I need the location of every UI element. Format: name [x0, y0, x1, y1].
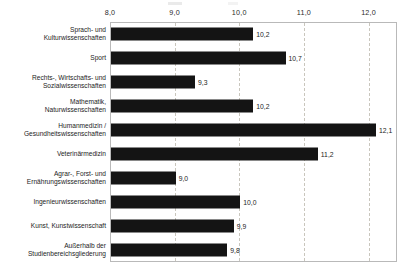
- bar: [111, 172, 176, 185]
- bar-value-label: 9,3: [195, 79, 207, 86]
- category-label: Außerhalb der Studienbereichsgliederung: [0, 242, 106, 258]
- bar-row: 10,2: [111, 100, 398, 113]
- bar-value-label: 9,0: [176, 175, 188, 182]
- bar-value-label: 11,2: [318, 151, 334, 158]
- bar-row: 9,0: [111, 172, 398, 185]
- category-label-column: Sprach- und KulturwissenschaftenSportRec…: [0, 22, 108, 262]
- bar-row: 10,2: [111, 28, 398, 41]
- bar-value-label: 9,8: [227, 247, 239, 254]
- bar-row: 10,0: [111, 196, 398, 209]
- bar: [111, 28, 253, 41]
- category-label: Kunst, Kunstwissenschaft: [0, 222, 106, 230]
- bar-value-label: 10,2: [253, 103, 269, 110]
- bar: [111, 148, 318, 161]
- bar-row: 9,8: [111, 244, 398, 257]
- x-tick-label: 11,0: [297, 8, 311, 17]
- bar-row: 9,9: [111, 220, 398, 233]
- bar-row: 9,3: [111, 76, 398, 89]
- bar-row: 11,2: [111, 148, 398, 161]
- bar: [111, 76, 195, 89]
- bar-row: 12,1: [111, 124, 398, 137]
- bar: [111, 220, 234, 233]
- x-axis-tick-labels: 8,09,010,011,012,0: [0, 8, 418, 21]
- x-tick-label: 9,0: [169, 8, 180, 17]
- bar-chart: 8,09,010,011,012,0 Sprach- und Kulturwis…: [0, 0, 418, 273]
- category-label: Humanmedizin / Gesundheitswissenschaften: [0, 122, 106, 138]
- bar: [111, 52, 286, 65]
- bar-value-label: 10,0: [240, 199, 256, 206]
- bar-value-label: 10,2: [253, 31, 269, 38]
- bar-row: 10,7: [111, 52, 398, 65]
- category-label: Sport: [0, 54, 106, 62]
- category-label: Ingenieurwissenschaften: [0, 198, 106, 206]
- category-label: Agrar-, Forst- und Ernährungswissenschaf…: [0, 170, 106, 186]
- bars-layer: 10,210,79,310,212,111,29,010,09,99,8: [111, 23, 396, 261]
- x-tick-label: 10,0: [232, 8, 247, 17]
- x-tick-label: 12,0: [361, 8, 376, 17]
- bar-value-label: 9,9: [234, 223, 246, 230]
- bar-value-label: 12,1: [376, 127, 392, 134]
- category-label: Mathematik, Naturwissenschaften: [0, 98, 106, 114]
- category-label: Rechts-, Wirtschafts- und Sozialwissensc…: [0, 74, 106, 90]
- category-label: Veterinärmedizin: [0, 150, 106, 158]
- bar-value-label: 10,7: [286, 55, 302, 62]
- bar: [111, 100, 253, 113]
- x-tick-label: 8,0: [105, 8, 116, 17]
- top-cutoff-artifact: [0, 0, 418, 7]
- bar: [111, 244, 227, 257]
- category-label: Sprach- und Kulturwissenschaften: [0, 26, 106, 42]
- bar: [111, 124, 376, 137]
- bar: [111, 196, 240, 209]
